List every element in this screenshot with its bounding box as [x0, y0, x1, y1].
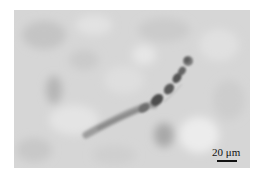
scale-bar-label: 20 μm: [212, 146, 240, 158]
micrograph-figure: 20 μm: [14, 10, 250, 168]
scale-bar: [217, 160, 237, 162]
micrograph-image: [14, 10, 250, 168]
